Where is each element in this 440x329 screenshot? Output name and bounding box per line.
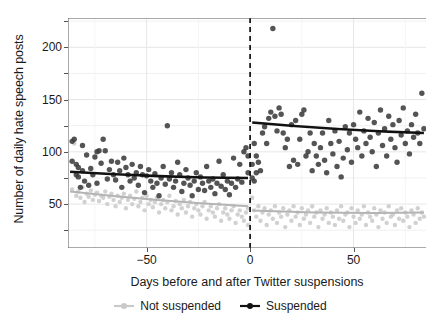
data-point [368, 214, 372, 218]
data-point [384, 153, 389, 158]
tick-mark [64, 100, 68, 101]
data-point [180, 206, 184, 210]
data-point [324, 170, 329, 175]
data-point [338, 174, 343, 179]
data-point [268, 109, 273, 114]
data-point [78, 185, 83, 190]
data-point [396, 118, 401, 123]
data-point [196, 208, 200, 212]
data-point [407, 225, 411, 229]
data-point [336, 139, 341, 144]
tick-mark [64, 126, 68, 127]
legend-key-icon [239, 300, 261, 312]
x-axis-title: Days before and after Twitter suspension… [68, 275, 426, 289]
legend-item-suspended[interactable]: Suspended [239, 300, 327, 312]
data-point [341, 155, 346, 160]
data-point [322, 157, 327, 162]
data-point [267, 212, 271, 216]
data-point [115, 160, 120, 165]
data-point [101, 196, 105, 200]
data-point [240, 214, 244, 218]
data-point [386, 114, 391, 119]
data-point [204, 164, 209, 169]
data-point [147, 202, 151, 206]
data-point [103, 148, 108, 153]
data-point [80, 143, 85, 148]
data-point [264, 141, 269, 146]
y-axis-tick-labels: 50100150200 [20, 0, 62, 329]
tick-mark [250, 248, 251, 252]
data-point [353, 221, 357, 225]
data-point [223, 187, 228, 192]
data-point [349, 160, 354, 165]
data-point [418, 217, 422, 221]
x-tick-label: −50 [117, 253, 177, 267]
tick-mark [64, 21, 68, 22]
data-point [310, 204, 314, 208]
data-point [229, 208, 233, 212]
data-point [258, 219, 262, 223]
data-point [260, 130, 265, 135]
data-point [305, 149, 310, 154]
data-point [235, 212, 239, 216]
data-point [339, 204, 343, 208]
data-point [266, 116, 271, 121]
data-point [272, 114, 277, 119]
data-point [105, 202, 109, 206]
data-point [372, 120, 377, 125]
data-point [97, 199, 101, 203]
data-point [278, 111, 283, 116]
data-point [94, 180, 99, 185]
data-point [196, 187, 201, 192]
data-point [314, 153, 319, 158]
data-point [96, 148, 101, 153]
data-point [150, 185, 155, 190]
data-point [169, 208, 173, 212]
data-point [362, 204, 366, 208]
data-point [211, 210, 215, 214]
data-point [123, 165, 128, 170]
data-point [159, 202, 163, 206]
data-point [256, 160, 261, 165]
data-point [394, 160, 399, 165]
data-point [244, 210, 248, 214]
data-point [117, 168, 122, 173]
data-point [167, 194, 171, 198]
data-point [190, 214, 194, 218]
data-point [307, 130, 312, 135]
data-point [351, 214, 355, 218]
data-point [163, 182, 168, 187]
data-point [163, 206, 167, 210]
data-point [258, 168, 263, 173]
data-point [181, 180, 186, 185]
data-point [175, 212, 179, 216]
y-tick-label: 200 [22, 40, 62, 54]
data-point [82, 178, 87, 183]
data-point [213, 214, 217, 218]
data-point [351, 122, 356, 127]
data-point [171, 204, 175, 208]
data-point [212, 191, 217, 196]
data-point [189, 193, 194, 198]
tick-mark [64, 178, 68, 179]
x-tick-label: 50 [324, 253, 384, 267]
data-point [122, 191, 126, 195]
data-point [334, 164, 339, 169]
data-point [416, 206, 420, 210]
data-point [98, 161, 103, 166]
data-point [243, 145, 248, 150]
data-point [337, 217, 341, 221]
data-point [111, 198, 115, 202]
data-point [419, 91, 424, 96]
legend-item-not-suspended[interactable]: Not suspended [113, 300, 221, 312]
data-point [242, 219, 246, 223]
scatter-plot-svg [68, 18, 426, 248]
data-point [138, 200, 142, 204]
x-tick-label: 0 [220, 253, 280, 267]
data-point [370, 219, 374, 223]
chart-legend: Not suspendedSuspended [0, 300, 440, 312]
data-point [308, 221, 312, 225]
data-point [347, 130, 352, 135]
data-point [86, 195, 90, 199]
data-point [103, 189, 107, 193]
